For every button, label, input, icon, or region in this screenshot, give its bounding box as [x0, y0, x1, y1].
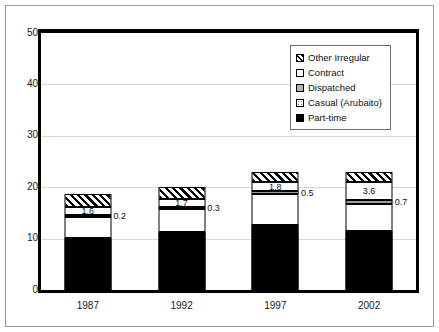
x-axis-tick-label: 1992 [171, 300, 193, 311]
y-axis-tick-label: 0 [4, 285, 38, 295]
y-axis-tick-label: 30 [4, 130, 38, 140]
bar-value-label: 1.7 [159, 198, 204, 207]
y-axis-tick-label: 40 [4, 79, 38, 89]
y-axis-tick-label: 10 [4, 233, 38, 243]
bar-segment-part-time[interactable] [346, 231, 393, 290]
gridline [41, 136, 416, 137]
legend-label: Casual (Arubaito) [308, 98, 382, 108]
gray-swatch-icon [296, 84, 304, 92]
legend-item-part-time[interactable]: Part-time [296, 110, 385, 125]
x-axis: 1987199219972002 [38, 296, 419, 318]
bar-segment-part-time[interactable] [252, 225, 299, 290]
x-axis-tick-label: 2002 [358, 300, 380, 311]
bar-1992[interactable]: 1.70.3 [158, 187, 205, 290]
bar-segment-other-irregular[interactable] [346, 172, 393, 182]
figure-canvas: 01020304050 1.60.21.70.31.80.53.60.7 198… [0, 0, 439, 332]
bar-1987[interactable]: 1.60.2 [64, 194, 111, 290]
legend-label: Dispatched [308, 83, 356, 93]
bar-value-label-outside: 0.2 [113, 212, 126, 221]
bar-segment-contract[interactable]: 1.8 [252, 182, 299, 191]
chart-legend: Other Irregular Contract Dispatched Casu… [290, 45, 391, 130]
legend-item-casual-arubaito[interactable]: Casual (Arubaito) [296, 95, 385, 110]
bar-1997[interactable]: 1.80.5 [252, 172, 299, 290]
bar-segment-casual-arubaito[interactable] [346, 204, 393, 232]
bar-value-label: 3.6 [347, 186, 392, 195]
bar-value-label-outside: 0.5 [301, 188, 314, 197]
legend-item-other-irregular[interactable]: Other Irregular [296, 50, 385, 65]
black-swatch-icon [296, 114, 304, 122]
white-swatch-icon [296, 69, 304, 77]
bar-value-label: 1.8 [253, 182, 298, 191]
legend-item-dispatched[interactable]: Dispatched [296, 80, 385, 95]
bar-segment-part-time[interactable] [64, 238, 111, 290]
bar-value-label-outside: 0.3 [207, 204, 220, 213]
bar-segment-part-time[interactable] [158, 232, 205, 290]
y-axis-tick-label: 50 [4, 28, 38, 38]
bar-2002[interactable]: 3.60.7 [346, 172, 393, 290]
diagonal-hatch-swatch-icon [296, 54, 304, 62]
bar-segment-casual-arubaito[interactable] [64, 217, 111, 238]
x-axis-tick-label: 1997 [264, 300, 286, 311]
bar-segment-contract[interactable]: 1.7 [158, 199, 205, 208]
bar-segment-contract[interactable]: 3.6 [346, 182, 393, 201]
legend-label: Part-time [308, 113, 347, 123]
x-axis-tick-label: 1987 [77, 300, 99, 311]
legend-item-contract[interactable]: Contract [296, 65, 385, 80]
bar-segment-casual-arubaito[interactable] [252, 194, 299, 225]
bar-segment-casual-arubaito[interactable] [158, 209, 205, 232]
y-axis-tick-label: 20 [4, 182, 38, 192]
bar-segment-contract[interactable]: 1.6 [64, 207, 111, 215]
legend-label: Other Irregular [308, 53, 370, 63]
y-axis: 01020304050 [0, 29, 38, 293]
bar-value-label-outside: 0.7 [395, 197, 408, 206]
legend-label: Contract [308, 68, 344, 78]
dotted-swatch-icon [296, 99, 304, 107]
